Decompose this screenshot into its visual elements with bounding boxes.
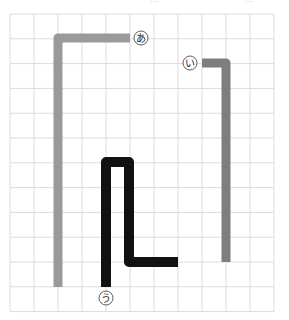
label-a: あ	[134, 31, 148, 45]
path-diagram: あいう	[0, 0, 289, 320]
label-u: う	[99, 291, 113, 305]
label-i: い	[183, 56, 197, 70]
label-text: あ	[136, 33, 146, 44]
path-u	[106, 162, 178, 287]
label-text: い	[185, 58, 195, 69]
label-text: う	[101, 293, 111, 304]
